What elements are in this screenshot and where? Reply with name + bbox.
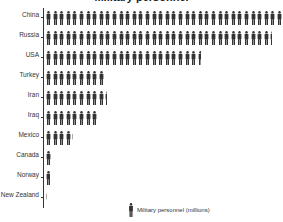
person-icon	[92, 111, 97, 125]
category-label: USA	[26, 51, 39, 58]
person-icon	[270, 11, 275, 25]
person-icon	[99, 11, 104, 25]
icon-bar	[46, 71, 283, 85]
person-icon	[59, 111, 64, 125]
person-icon	[46, 191, 47, 205]
person-icon	[178, 11, 183, 25]
person-icon	[92, 31, 97, 45]
person-icon	[119, 51, 124, 65]
chart-row: China	[0, 8, 283, 28]
person-icon	[86, 51, 91, 65]
person-icon	[46, 171, 50, 185]
person-icon	[244, 31, 249, 45]
axis-tick	[41, 17, 43, 18]
person-icon	[198, 51, 201, 65]
person-icon	[257, 11, 262, 25]
person-icon	[251, 31, 256, 45]
person-icon	[185, 31, 190, 45]
person-icon	[86, 31, 91, 45]
person-icon	[86, 11, 91, 25]
person-icon	[224, 11, 229, 25]
person-icon	[72, 11, 77, 25]
person-icon	[198, 11, 203, 25]
category-label: Mexico	[18, 131, 39, 138]
person-icon	[158, 31, 163, 45]
chart-row: Mexico	[0, 128, 283, 148]
icon-bar	[46, 131, 283, 145]
person-icon	[79, 91, 84, 105]
chart-row: Canada	[0, 148, 283, 168]
person-icon	[59, 71, 64, 85]
axis-tick	[41, 137, 43, 138]
person-icon	[152, 11, 157, 25]
person-icon	[211, 31, 216, 45]
axis-tick	[41, 177, 43, 178]
person-icon	[46, 11, 51, 25]
person-icon	[257, 31, 262, 45]
person-icon	[158, 11, 163, 25]
axis-tick	[41, 37, 43, 38]
person-icon	[112, 51, 117, 65]
person-icon	[53, 111, 58, 125]
person-icon	[178, 51, 183, 65]
person-icon	[72, 111, 77, 125]
person-icon	[92, 91, 97, 105]
icon-bar	[46, 171, 283, 185]
person-icon	[211, 11, 216, 25]
person-icon	[72, 71, 77, 85]
person-icon	[66, 31, 71, 45]
person-icon	[185, 51, 190, 65]
chart-row: Norway	[0, 168, 283, 188]
category-label: Norway	[17, 171, 39, 178]
person-icon	[128, 203, 134, 217]
person-icon	[46, 91, 51, 105]
chart-row: Iraq	[0, 108, 283, 128]
person-icon	[72, 31, 77, 45]
person-icon	[79, 11, 84, 25]
person-icon	[112, 11, 117, 25]
category-label: Iraq	[28, 111, 39, 118]
person-icon	[99, 51, 104, 65]
person-icon	[138, 11, 143, 25]
person-icon	[119, 11, 124, 25]
person-icon	[125, 31, 130, 45]
axis-tick	[41, 197, 43, 198]
person-icon	[46, 131, 51, 145]
person-icon	[53, 31, 58, 45]
person-icon	[244, 11, 249, 25]
person-icon	[277, 11, 282, 25]
person-icon	[204, 31, 209, 45]
category-label: Russia	[19, 31, 39, 38]
person-icon	[158, 51, 163, 65]
chart-row: New Zealand	[0, 188, 283, 208]
person-icon	[53, 11, 58, 25]
person-icon	[132, 51, 137, 65]
category-label: China	[22, 11, 39, 18]
category-label: Turkey	[19, 71, 39, 78]
chart-row: Iran	[0, 88, 283, 108]
person-icon	[72, 131, 73, 145]
person-icon	[198, 31, 203, 45]
icon-bar	[46, 91, 283, 105]
axis-tick	[41, 97, 43, 98]
person-icon	[105, 51, 110, 65]
icon-bar	[46, 11, 283, 25]
person-icon	[152, 31, 157, 45]
person-icon	[59, 51, 64, 65]
person-icon	[237, 31, 242, 45]
person-icon	[132, 31, 137, 45]
person-icon	[152, 51, 157, 65]
person-icon	[191, 51, 196, 65]
person-icon	[59, 11, 64, 25]
person-icon	[66, 11, 71, 25]
legend-label: Military personnel (millions)	[137, 207, 210, 213]
category-label: Canada	[16, 151, 39, 158]
person-icon	[66, 51, 71, 65]
person-icon	[138, 31, 143, 45]
person-icon	[125, 11, 130, 25]
person-icon	[218, 31, 223, 45]
person-icon	[66, 111, 71, 125]
person-icon	[145, 51, 150, 65]
person-icon	[264, 31, 269, 45]
person-icon	[86, 111, 91, 125]
